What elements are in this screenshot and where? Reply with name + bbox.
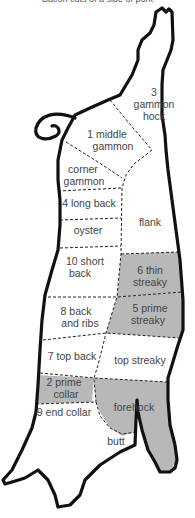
label-thin-streaky-line1: 6 thin [137,264,163,276]
label-middle-gammon-line2: gammon [93,140,134,152]
label-back-ribs-line2: and ribs [61,317,98,329]
label-prime-collar-line1: 2 prime [46,376,81,388]
label-gammon-hock-line2: hock [143,110,166,122]
label-short-back-line2: back [69,267,92,279]
label-back-ribs-line1: 8 back [61,305,93,317]
label-butt: butt [107,435,125,447]
label-prime-streaky-line1: 5 prime [132,302,167,314]
label-corner-gammon-line2: gammon [64,175,105,187]
label-prime-collar-line2: collar [53,388,79,400]
label-thin-streaky-line2: streaky [133,276,168,288]
label-forehock: forehock [114,401,155,413]
label-gammon-hock-line1: gammon [134,98,175,110]
label-top-back: 7 top back [48,350,97,362]
label-corner-gammon-line1: corner [68,163,98,175]
label-short-back-line1: 10 short [66,255,104,267]
label-middle-gammon-line1: 1 middle [87,128,127,140]
label-end-collar: 9 end collar [37,406,92,418]
label-gammon-hock-number: 3 [151,86,157,98]
pork-bacon-cuts-diagram: Bacon cuts of a side of pork 3 gammon ho… [0,0,195,518]
label-flank: flank [139,216,162,228]
cut-off-title: Bacon cuts of a side of pork [42,0,154,4]
label-oyster: oyster [74,224,103,236]
label-long-back: 4 long back [62,197,116,209]
label-top-streaky: top streaky [114,354,166,366]
label-prime-streaky-line2: streaky [131,314,166,326]
